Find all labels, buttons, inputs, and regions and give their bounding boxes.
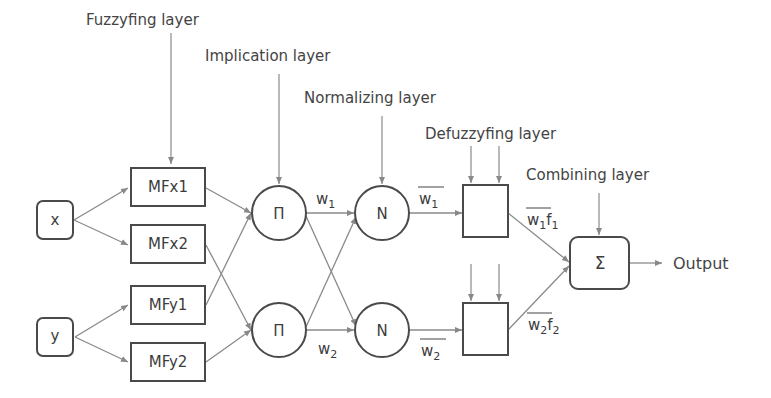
sum-label: Σ	[595, 253, 606, 273]
output-label: Output	[673, 254, 729, 273]
edge-label-w2-bar: w2	[420, 339, 446, 363]
mf-node-mfy1: MFy1	[131, 286, 205, 324]
layer-label-fuzzyfying: Fuzzyfing layer	[86, 11, 200, 29]
mf-label-mfy2: MFy2	[149, 353, 188, 371]
input-node-x: x	[37, 201, 73, 239]
svg-text:w1f1: w1f1	[527, 211, 559, 232]
layer-label-defuzzyfying: Defuzzyfing layer	[425, 125, 557, 143]
svg-text:w1: w1	[419, 190, 438, 211]
input-label-x: x	[51, 211, 60, 229]
edge-label-w1-bar: w1	[418, 187, 444, 211]
input-node-y: y	[37, 318, 73, 356]
layer-label-implication: Implication layer	[205, 47, 331, 65]
input-label-y: y	[51, 327, 60, 345]
mf-node-mfx1: MFx1	[131, 168, 205, 206]
mf-node-mfy2: MFy2	[131, 343, 205, 381]
product-node-2: Π	[252, 303, 306, 357]
edge-label-w1: w1	[316, 190, 335, 211]
svg-text:w1: w1	[316, 190, 335, 211]
svg-text:w2: w2	[318, 340, 337, 361]
mf-label-mfx2: MFx2	[148, 235, 188, 253]
normalize-node-2: N	[355, 303, 409, 357]
normalize-node-1: N	[355, 186, 409, 240]
mf-label-mfy1: MFy1	[149, 296, 188, 314]
product-label-1: Π	[273, 205, 284, 223]
anfis-diagram: Fuzzyfing layer Implication layer Normal…	[0, 0, 771, 398]
normalize-label-1: N	[376, 205, 387, 223]
layer-label-normalizing: Normalizing layer	[304, 89, 437, 107]
svg-text:w2f2: w2f2	[528, 316, 560, 337]
sum-node: Σ	[570, 237, 629, 289]
defuzz-node-1	[463, 185, 508, 237]
svg-text:w2: w2	[421, 342, 440, 363]
normalize-label-2: N	[376, 322, 387, 340]
product-label-2: Π	[273, 322, 284, 340]
edge-label-w2: w2	[318, 340, 337, 361]
mf-node-mfx2: MFx2	[131, 225, 205, 263]
product-node-1: Π	[252, 186, 306, 240]
edge-label-w2f2: w2f2	[527, 313, 560, 337]
layer-label-combining: Combining layer	[526, 166, 650, 184]
edge-label-w1f1: w1f1	[526, 208, 559, 232]
defuzz-node-2	[463, 303, 508, 355]
mf-label-mfx1: MFx1	[148, 178, 188, 196]
